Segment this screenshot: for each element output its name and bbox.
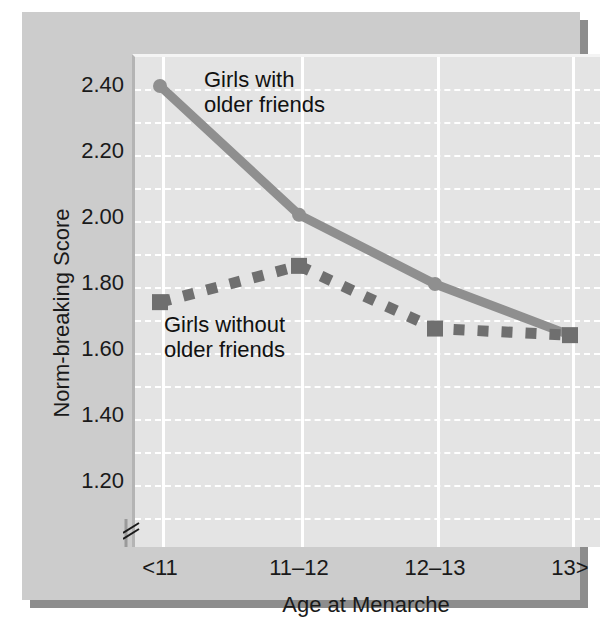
data-point-marker (428, 277, 442, 291)
data-point-marker (427, 321, 443, 337)
data-point-marker (562, 327, 578, 343)
data-point-marker (153, 79, 167, 93)
series-annotation-with-older-friends: Girls witholder friends (204, 67, 325, 117)
data-point-marker (152, 294, 168, 310)
y-axis-title: Norm-breaking Score (49, 178, 75, 448)
series-with-older-friends (153, 79, 577, 342)
series-annotation-without-older-friends: Girls withoutolder friends (164, 312, 285, 362)
chart-panel: 1.201.401.601.802.002.202.40 <1111–1212–… (22, 12, 580, 600)
x-axis-title: Age at Menarche (132, 592, 600, 618)
data-point-marker (291, 258, 307, 274)
data-point-marker (292, 208, 306, 222)
